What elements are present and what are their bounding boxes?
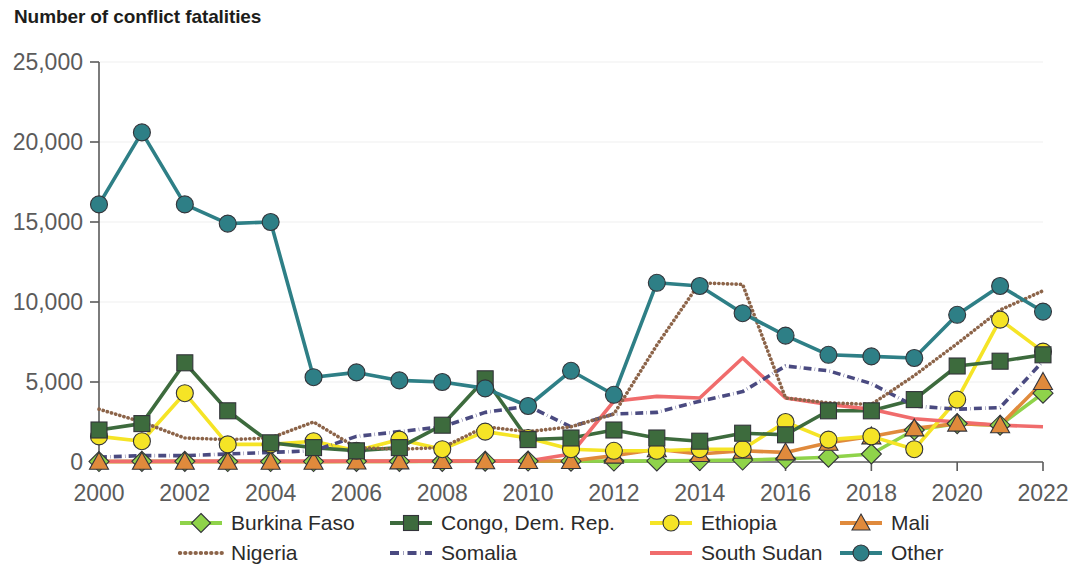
- legend-item-nigeria[interactable]: Nigeria: [178, 538, 388, 568]
- data-point: [262, 214, 279, 231]
- y-axis-tick-label: 0: [70, 449, 83, 475]
- data-point: [863, 403, 879, 419]
- x-axis-tick-label: 2020: [932, 480, 983, 506]
- data-point: [861, 444, 881, 464]
- data-point: [520, 432, 536, 448]
- data-point: [263, 435, 279, 451]
- x-axis-tick-label: 2018: [846, 480, 897, 506]
- data-point: [91, 422, 107, 438]
- data-point: [220, 403, 236, 419]
- x-axis-tick-label: 2016: [760, 480, 811, 506]
- data-point: [176, 196, 193, 213]
- data-point: [992, 278, 1009, 295]
- data-point: [778, 427, 794, 443]
- legend-label: Somalia: [441, 541, 517, 565]
- data-point: [348, 364, 365, 381]
- page-title: Number of conflict fatalities: [14, 6, 261, 28]
- data-point: [992, 353, 1008, 369]
- y-axis-tick-label: 5,000: [25, 369, 83, 395]
- legend-label: Mali: [891, 511, 930, 535]
- data-point: [477, 380, 494, 397]
- data-point: [133, 124, 150, 141]
- data-point: [391, 440, 407, 456]
- data-point: [863, 348, 880, 365]
- y-axis-tick-label: 10,000: [13, 289, 83, 315]
- data-point: [605, 386, 622, 403]
- x-axis-tick-label: 2010: [503, 480, 554, 506]
- data-point: [134, 416, 150, 432]
- legend-item-burkina-faso[interactable]: Burkina Faso: [178, 508, 388, 538]
- mali-marker-icon: [838, 510, 884, 536]
- data-point: [477, 423, 494, 440]
- data-point: [133, 433, 150, 450]
- chart-legend: Burkina Faso Congo, Dem. Rep. Ethiopia M…: [0, 508, 1068, 569]
- data-point: [820, 346, 837, 363]
- line-chart-svg: 05,00010,00015,00020,00025,0002000200220…: [0, 40, 1068, 510]
- chart-root: Number of conflict fatalities 05,00010,0…: [0, 0, 1068, 569]
- x-axis-tick-label: 2002: [159, 480, 210, 506]
- data-point: [91, 196, 108, 213]
- data-point: [692, 433, 708, 449]
- data-point: [176, 385, 193, 402]
- ethiopia-marker-icon: [648, 510, 694, 536]
- data-point: [391, 372, 408, 389]
- legend-label: Other: [891, 541, 944, 565]
- data-point: [949, 358, 965, 374]
- legend-label: Nigeria: [231, 541, 298, 565]
- legend-item-ethiopia[interactable]: Ethiopia: [648, 508, 838, 538]
- data-point: [777, 327, 794, 344]
- nigeria-line-icon: [178, 540, 224, 566]
- data-point: [306, 440, 322, 456]
- data-point: [992, 311, 1009, 328]
- data-point: [734, 305, 751, 322]
- data-point: [906, 441, 923, 458]
- data-point: [563, 362, 580, 379]
- data-point: [606, 422, 622, 438]
- data-point: [520, 398, 537, 415]
- data-point: [1035, 303, 1052, 320]
- data-point: [735, 425, 751, 441]
- data-point: [219, 436, 236, 453]
- x-axis-tick-label: 2022: [1017, 480, 1068, 506]
- y-axis-tick-label: 15,000: [13, 209, 83, 235]
- legend-row-1: Burkina Faso Congo, Dem. Rep. Ethiopia M…: [0, 508, 1068, 538]
- legend-label: Ethiopia: [701, 511, 777, 535]
- x-axis-tick-label: 2012: [588, 480, 639, 506]
- data-point: [648, 274, 665, 291]
- burkina-faso-marker-icon: [178, 510, 224, 536]
- legend-row-2: Nigeria Somalia South Sudan Other: [0, 538, 1068, 568]
- data-point: [434, 374, 451, 391]
- data-point: [820, 403, 836, 419]
- y-axis-tick-label: 20,000: [13, 129, 83, 155]
- data-point: [649, 430, 665, 446]
- legend-label: Congo, Dem. Rep.: [441, 511, 615, 535]
- plot-area: 05,00010,00015,00020,00025,0002000200220…: [0, 40, 1068, 510]
- data-point: [563, 430, 579, 446]
- legend-item-somalia[interactable]: Somalia: [388, 538, 648, 568]
- legend-item-south-sudan[interactable]: South Sudan: [648, 538, 838, 568]
- x-axis-tick-label: 2008: [417, 480, 468, 506]
- data-point: [305, 369, 322, 386]
- x-axis-tick-label: 2014: [674, 480, 725, 506]
- legend-item-mali[interactable]: Mali: [838, 508, 930, 538]
- somalia-line-icon: [388, 540, 434, 566]
- data-point: [434, 417, 450, 433]
- legend-item-congo[interactable]: Congo, Dem. Rep.: [388, 508, 648, 538]
- data-point: [820, 431, 837, 448]
- data-point: [734, 441, 751, 458]
- x-axis-tick-label: 2004: [245, 480, 296, 506]
- x-axis-tick-label: 2000: [73, 480, 124, 506]
- data-point: [949, 306, 966, 323]
- series-markers-other: [91, 124, 1052, 415]
- data-point: [434, 441, 451, 458]
- legend-label: South Sudan: [701, 541, 822, 565]
- south-sudan-line-icon: [648, 540, 694, 566]
- other-marker-icon: [838, 540, 884, 566]
- legend-item-other[interactable]: Other: [838, 538, 944, 568]
- legend-label: Burkina Faso: [231, 511, 355, 535]
- data-point: [906, 350, 923, 367]
- data-point: [1035, 347, 1051, 363]
- data-point: [949, 391, 966, 408]
- data-point: [177, 355, 193, 371]
- data-point: [219, 215, 236, 232]
